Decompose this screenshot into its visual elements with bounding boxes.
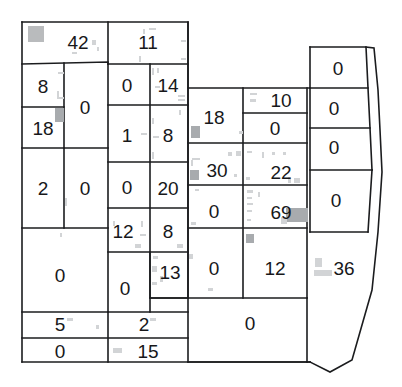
parcel-value: 0 <box>209 202 220 221</box>
map-artifact <box>283 152 286 155</box>
map-artifact <box>236 151 241 156</box>
parcel-value: 8 <box>163 126 174 145</box>
parcel-value: 8 <box>38 77 49 96</box>
map-artifact <box>157 68 159 73</box>
map-artifact <box>141 221 143 227</box>
parcel-value: 30 <box>206 161 227 180</box>
map-artifact <box>250 93 257 95</box>
map-artifact <box>189 254 193 259</box>
parcel-value: 0 <box>80 179 91 198</box>
parcel-value: 13 <box>159 263 180 282</box>
parcel-value: 22 <box>270 163 291 182</box>
map-artifact <box>247 210 252 212</box>
map-artifact <box>228 152 232 156</box>
map-artifact <box>141 133 147 135</box>
parcel-value: 0 <box>55 342 66 361</box>
map-artifact <box>152 68 154 75</box>
parcel-value: 20 <box>157 179 178 198</box>
parcel-value: 12 <box>264 259 285 278</box>
map-artifact <box>247 190 253 193</box>
map-artifact <box>97 47 99 51</box>
map-artifact <box>113 348 122 353</box>
map-artifact <box>135 244 141 248</box>
map-artifact <box>239 131 243 134</box>
map-artifact <box>152 152 154 159</box>
map-artifact <box>58 72 64 74</box>
map-artifact <box>152 266 157 272</box>
map-artifact <box>246 234 254 243</box>
map-artifact <box>195 189 199 191</box>
map-artifact <box>96 325 99 329</box>
map-artifact <box>152 282 157 285</box>
map-artifact <box>192 158 200 160</box>
parcel-value: 0 <box>245 314 256 333</box>
map-artifact <box>246 177 250 180</box>
parcel-value: 0 <box>120 279 131 298</box>
parcel-value: 14 <box>157 76 178 95</box>
map-artifact <box>153 256 158 259</box>
parcel-value: 0 <box>209 259 220 278</box>
map-artifact <box>247 219 251 221</box>
map-artifact <box>247 197 252 199</box>
map-artifact <box>140 234 146 236</box>
map-artifact <box>179 110 181 115</box>
parcel-value: 0 <box>331 191 342 210</box>
map-artifact <box>60 233 62 237</box>
map-artifact <box>234 174 237 177</box>
parcel-value: 2 <box>139 315 150 334</box>
parcel-value: 15 <box>137 342 158 361</box>
parcel-value: 0 <box>80 98 91 117</box>
map-artifact <box>262 152 264 158</box>
parcel-value: 5 <box>55 315 66 334</box>
map-artifact <box>57 97 64 99</box>
map-artifact <box>153 136 159 138</box>
parcel-value: 0 <box>329 99 340 118</box>
parcel-value: 0 <box>55 266 66 285</box>
parcel-value: 18 <box>203 108 224 127</box>
map-artifact <box>181 40 186 42</box>
map-artifact <box>149 28 156 30</box>
map-artifact <box>258 192 260 197</box>
parcel-value: 0 <box>333 59 344 78</box>
parcel-value: 2 <box>38 179 49 198</box>
map-artifact <box>208 288 213 291</box>
map-artifact <box>315 258 322 267</box>
parcel-value: 0 <box>122 76 133 95</box>
map-artifact <box>65 198 67 206</box>
map-artifact <box>181 58 186 60</box>
map-artifact <box>247 203 253 205</box>
map-artifact <box>92 40 96 45</box>
parcel-value: 0 <box>122 178 133 197</box>
map-artifact <box>150 318 156 321</box>
map-artifact <box>139 56 141 62</box>
map-artifact <box>152 118 154 124</box>
parcel-value: 0 <box>329 138 340 157</box>
parcel-value: 10 <box>270 91 291 110</box>
map-artifact <box>178 99 185 101</box>
map-artifact <box>191 160 193 166</box>
map-artifact <box>67 318 73 321</box>
parcel-value: 69 <box>270 203 291 222</box>
parcel-value: 42 <box>67 33 88 52</box>
parcel-value: 36 <box>333 259 354 278</box>
map-artifact <box>55 108 64 122</box>
parcel-value: 8 <box>163 222 174 241</box>
map-artifact <box>272 152 275 155</box>
map-artifact <box>177 244 183 248</box>
parcel-value: 1 <box>122 126 133 145</box>
map-artifact <box>294 178 300 183</box>
map-artifact <box>314 270 332 276</box>
map-artifact <box>178 95 185 97</box>
parcel-value: 11 <box>138 33 158 52</box>
parcel-value: 18 <box>32 119 53 138</box>
parcel-value-map: 42 11 8 0 0 14 18 1 8 18 10 0 2 0 0 20 3… <box>0 0 402 387</box>
parcel-value: 12 <box>112 222 133 241</box>
parcel-value: 0 <box>270 119 281 138</box>
map-artifact <box>250 99 256 102</box>
map-artifact <box>191 222 196 225</box>
map-artifact <box>247 151 252 153</box>
map-artifact <box>28 26 44 42</box>
map-artifact <box>190 170 199 180</box>
map-artifact <box>191 126 200 138</box>
